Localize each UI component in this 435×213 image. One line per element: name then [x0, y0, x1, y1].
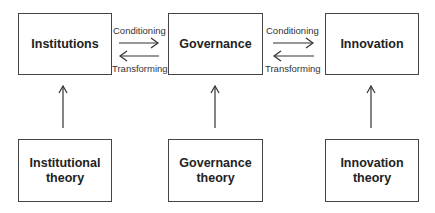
link2-forward-label: Conditioning [266, 25, 319, 36]
innovation-box: Innovation [325, 13, 419, 75]
governance-theory-box: Governance theory [168, 139, 263, 202]
institutional-theory-line1: Institutional [30, 156, 101, 171]
governance-theory-line1: Governance [179, 156, 251, 171]
governance-theory-line2: theory [196, 171, 234, 186]
governance-label: Governance [179, 37, 251, 52]
link1-forward-label: Conditioning [113, 25, 166, 36]
institutional-theory-line2: theory [46, 171, 84, 186]
institutions-box: Institutions [18, 13, 112, 75]
link1-backward-label: Transforming [112, 63, 168, 74]
innovation-theory-line1: Innovation [340, 156, 403, 171]
governance-box: Governance [168, 13, 263, 75]
innovation-theory-line2: theory [353, 171, 391, 186]
link2-backward-label: Transforming [265, 63, 321, 74]
institutional-theory-box: Institutional theory [18, 139, 112, 202]
innovation-theory-box: Innovation theory [325, 139, 419, 202]
institutions-label: Institutions [31, 37, 98, 52]
innovation-label: Innovation [340, 37, 403, 52]
